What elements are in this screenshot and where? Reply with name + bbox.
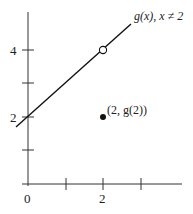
y-tick-label-2: 2 [10, 110, 17, 125]
filled-point [100, 114, 106, 120]
chart: 4 2 0 2 g(x), x ≠ 2 (2, g(2)) [0, 0, 193, 214]
x-tick-label-0: 0 [24, 191, 31, 206]
curve-label: g(x), x ≠ 2 [134, 9, 183, 23]
point-label: (2, g(2)) [107, 103, 147, 117]
y-tick-label-4: 4 [10, 43, 17, 58]
x-tick-label-2: 2 [99, 191, 106, 206]
open-point [99, 46, 106, 53]
